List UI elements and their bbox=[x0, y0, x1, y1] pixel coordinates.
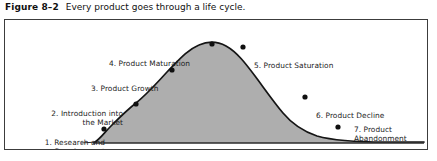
stage-label-7: 7. Product Abandonment bbox=[354, 125, 428, 143]
stage-label-1-line2: Development bbox=[19, 147, 105, 150]
figure-caption: Figure 8–2Every product goes through a l… bbox=[5, 1, 245, 13]
figure-container: Figure 8–2Every product goes through a l… bbox=[0, 0, 437, 161]
stage-marker-2 bbox=[133, 101, 138, 106]
figure-number: Figure 8–2 bbox=[5, 2, 59, 12]
stage-marker-5 bbox=[240, 44, 245, 49]
stage-marker-7 bbox=[335, 124, 340, 129]
stage-label-2-line2: the Market bbox=[19, 118, 123, 127]
stage-label-3-text: 3. Product Growth bbox=[91, 84, 158, 93]
stage-marker-6 bbox=[302, 94, 307, 99]
stage-label-6: 6. Product Decline bbox=[316, 111, 384, 120]
stage-label-2: 2. Introduction into the Market bbox=[19, 109, 123, 127]
stage-label-5: 5. Product Saturation bbox=[254, 61, 333, 70]
stage-label-7-line1: 7. Product bbox=[354, 125, 428, 134]
stage-marker-4 bbox=[209, 41, 214, 46]
figure-caption-text: Every product goes through a life cycle. bbox=[66, 2, 246, 12]
stage-label-6-text: 6. Product Decline bbox=[316, 111, 384, 120]
stage-label-4-text: 4. Product Maturation bbox=[109, 59, 190, 68]
stage-label-1-line1: 1. Research and bbox=[19, 138, 105, 147]
stage-label-5-text: 5. Product Saturation bbox=[254, 61, 333, 70]
stage-label-4: 4. Product Maturation bbox=[109, 59, 190, 68]
stage-label-7-line2: Abandonment bbox=[354, 134, 428, 143]
stage-label-1: 1. Research and Development bbox=[19, 138, 105, 150]
stage-label-2-line1: 2. Introduction into bbox=[19, 109, 123, 118]
stage-label-3: 3. Product Growth bbox=[91, 84, 158, 93]
figure-frame: 4. Product Maturation 5. Product Saturat… bbox=[4, 19, 428, 150]
